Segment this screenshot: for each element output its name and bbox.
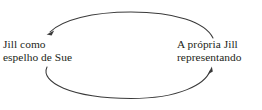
node-label-right: A própria Jill representando (177, 38, 242, 64)
arrow-left-to-right-path (46, 67, 210, 99)
node-right-line-1: A própria Jill (177, 38, 242, 51)
node-left-line-2: espelho de Sue (3, 51, 72, 64)
arrow-right-to-left-path (50, 12, 213, 38)
node-right-line-2: representando (177, 51, 242, 64)
arrowhead-right-icon (208, 66, 213, 74)
node-left-line-1: Jill como (3, 38, 72, 51)
cycle-diagram: Jill como espelho de Sue A própria Jill … (0, 0, 262, 110)
node-label-left: Jill como espelho de Sue (3, 38, 72, 64)
